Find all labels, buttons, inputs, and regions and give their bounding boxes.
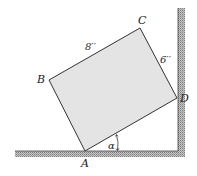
dimension-label-cd: 6′′ <box>160 54 172 65</box>
wall <box>178 8 185 157</box>
point-label-d: D <box>179 92 189 105</box>
floor <box>15 151 185 157</box>
point-label-c: C <box>138 14 147 27</box>
dimension-label-bc: 8′′ <box>85 41 97 52</box>
rectangular-block <box>49 28 177 151</box>
point-label-b: B <box>36 73 45 86</box>
block-wall-diagram: C B D A 8′′ 6′′ α <box>0 0 197 176</box>
point-label-a: A <box>80 157 89 170</box>
angle-alpha-indicator <box>115 135 119 151</box>
angle-label-alpha: α <box>108 140 115 151</box>
